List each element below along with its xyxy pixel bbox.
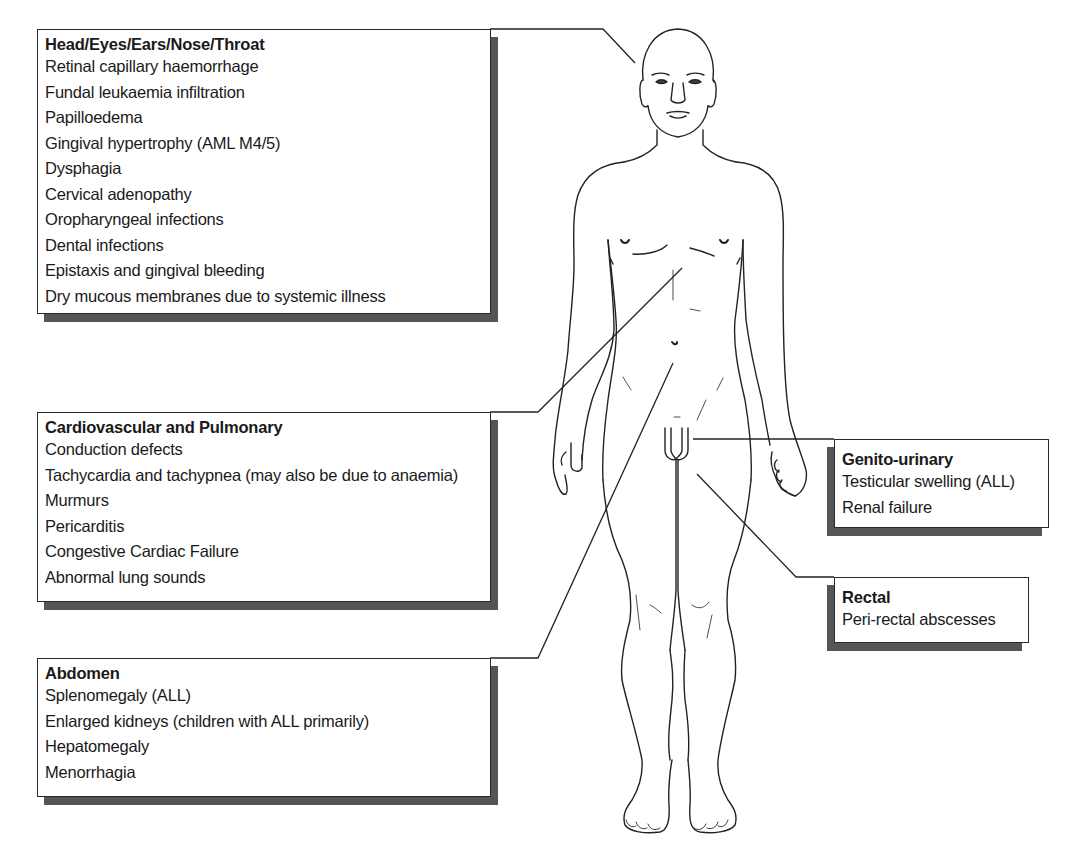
panel-list: Peri-rectal abscesses [842, 607, 1028, 633]
list-item: Pericarditis [45, 514, 490, 540]
list-item: Cervical adenopathy [45, 182, 490, 208]
panel-list: Conduction defects Tachycardia and tachy… [45, 437, 490, 590]
panel-list: Splenomegaly (ALL) Enlarged kidneys (chi… [45, 683, 490, 785]
panel-abdomen: Abdomen Splenomegaly (ALL) Enlarged kidn… [37, 658, 491, 797]
list-item: Epistaxis and gingival bleeding [45, 258, 490, 284]
list-item: Oropharyngeal infections [45, 207, 490, 233]
torso-outline [553, 162, 806, 650]
list-item: Congestive Cardiac Failure [45, 539, 490, 565]
panel-list: Retinal capillary haemorrhage Fundal leu… [45, 54, 490, 309]
panel-heent: Head/Eyes/Ears/Nose/Throat Retinal capil… [37, 29, 491, 314]
list-item: Renal failure [842, 495, 1048, 521]
head-outline [624, 29, 736, 162]
list-item: Peri-rectal abscesses [842, 607, 1028, 633]
panel-rectal: Rectal Peri-rectal abscesses [834, 577, 1029, 643]
list-item: Gingival hypertrophy (AML M4/5) [45, 131, 490, 157]
panel-title: Cardiovascular and Pulmonary [45, 417, 490, 437]
list-item: Dental infections [45, 233, 490, 259]
list-item: Murmurs [45, 488, 490, 514]
leader-line-rectal [697, 474, 834, 577]
list-item: Dysphagia [45, 156, 490, 182]
panel-title: Genito-urinary [842, 449, 1048, 469]
list-item: Papilloedema [45, 105, 490, 131]
list-item: Conduction defects [45, 437, 490, 463]
list-item: Abnormal lung sounds [45, 565, 490, 591]
panel-genito-urinary: Genito-urinary Testicular swelling (ALL)… [834, 439, 1049, 528]
legs-outline [603, 480, 751, 833]
list-item: Dry mucous membranes due to systemic ill… [45, 284, 490, 310]
leader-line-heent [490, 29, 635, 63]
list-item: Enlarged kidneys (children with ALL prim… [45, 709, 490, 735]
panel-title: Abdomen [45, 663, 490, 683]
panel-title: Rectal [842, 587, 1028, 607]
panel-list: Testicular swelling (ALL) Renal failure [842, 469, 1048, 520]
leader-line-cardio [490, 268, 682, 412]
list-item: Testicular swelling (ALL) [842, 469, 1048, 495]
list-item: Retinal capillary haemorrhage [45, 54, 490, 80]
leader-line-abdomen [490, 363, 673, 658]
list-item: Tachycardia and tachypnea (may also be d… [45, 463, 490, 489]
list-item: Splenomegaly (ALL) [45, 683, 490, 709]
list-item: Fundal leukaemia infiltration [45, 80, 490, 106]
panel-cardiovascular-pulmonary: Cardiovascular and Pulmonary Conduction … [37, 412, 491, 602]
panel-title: Head/Eyes/Ears/Nose/Throat [45, 34, 490, 54]
list-item: Hepatomegaly [45, 734, 490, 760]
list-item: Menorrhagia [45, 760, 490, 786]
